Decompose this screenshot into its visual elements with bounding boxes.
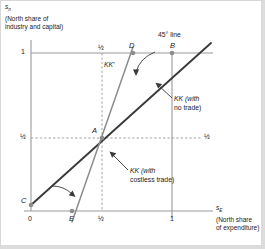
- line-45-degree: [31, 43, 211, 205]
- annotation-kk-costless-trade-line1: KK (with: [130, 167, 155, 174]
- tick-origin: 0: [28, 215, 32, 223]
- point-label-B: B: [170, 42, 175, 50]
- arrow-upper-curved: [133, 52, 155, 76]
- point-label-D: D: [129, 42, 134, 50]
- y-axis-caption-line2: industry and capital): [5, 23, 63, 30]
- x-axis-subscript: E: [219, 208, 222, 213]
- point-label-C: C: [21, 197, 26, 205]
- figure-container: sn (North share of industry and capital)…: [0, 0, 265, 249]
- point-marker-D: [131, 51, 136, 56]
- annotation-kk-no-trade-line2: no trade): [174, 104, 201, 111]
- point-label-E: E: [69, 215, 74, 223]
- tick-right-half: ½: [204, 133, 210, 141]
- x-axis-caption-line2: of expenditure): [216, 224, 259, 231]
- arrow-kk-costless-trade: [110, 152, 129, 171]
- arrow-lower-curved: [52, 186, 76, 197]
- tick-top-half: ½: [98, 44, 104, 52]
- tick-x-half: ½: [98, 215, 104, 223]
- point-marker-E: [70, 209, 75, 214]
- point-label-A: A: [92, 127, 97, 135]
- tick-y-one: 1: [21, 48, 25, 56]
- x-axis-caption-line1: (North share: [216, 216, 252, 223]
- annotation-kk-costless-trade: KK (with costless trade): [130, 167, 174, 184]
- annotation-45-degree-line: 45° line: [158, 31, 181, 40]
- annotation-kk-costless-trade-line2: costless trade): [130, 176, 174, 183]
- point-marker-A: [100, 136, 105, 141]
- annotation-kk-prime-text: KK′: [104, 61, 114, 68]
- line-kk-prime: [72, 47, 133, 222]
- tick-x-one: 1: [170, 215, 174, 223]
- point-marker-B: [170, 51, 175, 56]
- y-axis-subscript: n: [8, 7, 11, 12]
- x-axis-caption: sE (North share of expenditure): [216, 204, 259, 232]
- annotation-kk-no-trade-line1: KK (with: [174, 95, 199, 102]
- annotation-kk-prime: KK′: [104, 61, 114, 70]
- y-axis-caption: sn (North share of industry and capital): [5, 3, 63, 31]
- annotation-kk-no-trade: KK (with no trade): [174, 95, 201, 112]
- y-axis-caption-line1: (North share of: [5, 15, 48, 22]
- point-marker-C: [29, 203, 34, 208]
- tick-y-half: ½: [20, 133, 26, 141]
